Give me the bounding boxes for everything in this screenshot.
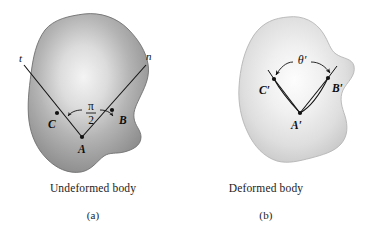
- angle-numerator: π: [88, 100, 94, 112]
- point-c-prime-label: C′: [259, 84, 270, 96]
- deformed-angle-theta-prime: θ′: [298, 53, 307, 67]
- point-c-prime-marker: [272, 77, 276, 81]
- point-c-label: C: [48, 118, 56, 130]
- panel-b-group: θ′ C′ A′ B′: [239, 17, 354, 163]
- point-a-marker: [80, 135, 84, 139]
- n-axis-label: n: [146, 50, 152, 62]
- point-b-label: B: [118, 114, 127, 126]
- point-b-prime-label: B′: [331, 82, 343, 94]
- figure-canvas: π 2 t n C A B: [0, 0, 370, 236]
- mechanics-strain-figure: π 2 t n C A B: [0, 0, 370, 236]
- point-b-marker: [110, 108, 114, 112]
- angle-denominator: 2: [88, 114, 94, 126]
- point-c-marker: [55, 111, 59, 115]
- point-a-prime-marker: [298, 111, 302, 115]
- panel-a-group: π 2 t n C A B: [19, 14, 152, 173]
- point-a-label: A: [77, 143, 86, 155]
- point-a-prime-label: A′: [290, 119, 302, 131]
- point-b-prime-marker: [326, 76, 330, 80]
- t-axis-label: t: [19, 52, 23, 64]
